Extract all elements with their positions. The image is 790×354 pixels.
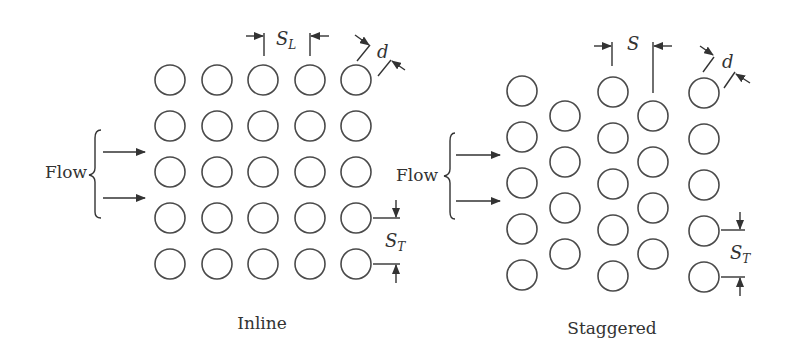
tube-circle	[638, 239, 668, 269]
svg-text:ST: ST	[730, 242, 751, 266]
tube-circle	[507, 260, 537, 290]
inline-flow-indicator: Flow	[45, 130, 145, 218]
dimension-arrow-icon	[736, 74, 750, 83]
tube-circle	[295, 111, 325, 141]
dimension-arrow-icon	[392, 61, 405, 70]
tube-circle	[550, 147, 580, 177]
tube-circle	[507, 76, 537, 106]
tube-circle	[202, 249, 232, 279]
inline-sl-dimension: SL	[246, 28, 329, 56]
svg-text:ST: ST	[385, 230, 406, 254]
tube-circle	[295, 157, 325, 187]
svg-text:S: S	[627, 33, 639, 54]
staggered-flow-indicator: Flow	[396, 133, 500, 219]
inline-flow-label: Flow	[45, 162, 87, 182]
tube-circle	[598, 169, 628, 199]
tube-circle	[202, 65, 232, 95]
tube-circle	[295, 65, 325, 95]
dimension-arrow-icon	[355, 35, 369, 45]
tube-circle	[341, 157, 371, 187]
svg-text:SL: SL	[276, 28, 296, 52]
tube-circle	[598, 215, 628, 245]
tube-circle	[248, 65, 278, 95]
inline-st-dimension: ST	[373, 200, 406, 283]
brace-icon	[444, 133, 455, 219]
tube-circle	[295, 249, 325, 279]
tube-circle	[550, 101, 580, 131]
tube-circle	[598, 123, 628, 153]
tube-circle	[598, 77, 628, 107]
staggered-flow-label: Flow	[396, 165, 438, 185]
tube-circle	[689, 78, 719, 108]
tube-circle	[638, 193, 668, 223]
tube-circle	[689, 262, 719, 292]
tube-circle	[155, 111, 185, 141]
staggered-caption: Staggered	[567, 318, 657, 338]
tube-circle	[507, 214, 537, 244]
tube-circle	[155, 203, 185, 233]
tube-circle	[202, 157, 232, 187]
tube-circle	[341, 111, 371, 141]
tube-bank-diagram: Flow SL d ST Inline Flow	[0, 0, 790, 354]
staggered-d-dimension: d	[700, 46, 750, 88]
tube-circle	[341, 203, 371, 233]
svg-text:d: d	[377, 41, 389, 62]
tube-circle	[341, 249, 371, 279]
dimension-arrow-icon	[700, 46, 713, 55]
tube-circle	[155, 65, 185, 95]
tube-circle	[248, 157, 278, 187]
tube-circle	[689, 124, 719, 154]
staggered-tube-array	[507, 76, 719, 292]
tube-circle	[155, 249, 185, 279]
tube-circle	[638, 147, 668, 177]
tube-circle	[598, 261, 628, 291]
inline-tube-array	[155, 65, 371, 279]
tube-circle	[689, 170, 719, 200]
staggered-s-dimension: S	[594, 33, 672, 93]
inline-d-dimension: d	[355, 35, 405, 76]
tube-circle	[689, 216, 719, 246]
svg-text:d: d	[722, 51, 734, 72]
tube-circle	[507, 168, 537, 198]
tube-circle	[341, 65, 371, 95]
tube-circle	[248, 111, 278, 141]
tube-circle	[202, 203, 232, 233]
tube-circle	[550, 193, 580, 223]
tube-circle	[155, 157, 185, 187]
tube-circle	[507, 122, 537, 152]
inline-caption: Inline	[237, 313, 287, 333]
tube-circle	[248, 203, 278, 233]
tube-circle	[295, 203, 325, 233]
tube-circle	[202, 111, 232, 141]
brace-icon	[89, 130, 101, 218]
tube-circle	[638, 101, 668, 131]
tube-circle	[248, 249, 278, 279]
tube-circle	[550, 239, 580, 269]
staggered-st-dimension: ST	[721, 212, 751, 296]
